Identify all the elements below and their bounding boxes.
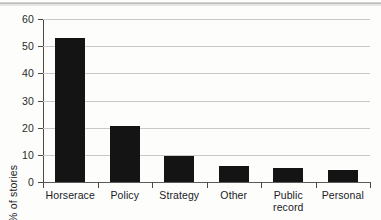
y-axis-tick-label: 20: [22, 122, 34, 134]
y-axis-tick-label: 60: [22, 13, 34, 25]
x-axis-tick: [152, 182, 153, 188]
bar: [219, 166, 249, 182]
x-axis-category-label: Public record: [261, 190, 316, 213]
x-axis-tick: [261, 182, 262, 188]
x-axis-category-label: Other: [207, 190, 262, 202]
y-axis-tick-label: 40: [22, 67, 34, 79]
y-axis-tick-label: 30: [22, 95, 34, 107]
x-axis-tick: [207, 182, 208, 188]
gridline: [43, 101, 370, 102]
plot-area: 0102030405060: [43, 19, 370, 182]
bar: [164, 156, 194, 182]
y-axis-tick: [38, 101, 43, 102]
bar-chart-figure: % of stories 0102030405060 HorseracePoli…: [0, 0, 381, 220]
y-axis-tick: [38, 19, 43, 20]
gridline: [43, 155, 370, 156]
x-axis-tick: [370, 182, 371, 188]
scan-artifact-streak: [0, 2, 381, 5]
y-axis-title: % of stories: [7, 112, 19, 220]
bar: [110, 126, 140, 182]
x-axis-category-label: Strategy: [152, 190, 207, 202]
gridline: [43, 73, 370, 74]
y-axis-tick: [38, 46, 43, 47]
x-axis-category-label: Horserace: [43, 190, 98, 202]
bar: [55, 38, 85, 182]
gridline: [43, 19, 370, 20]
y-axis-tick: [38, 73, 43, 74]
scan-artifact-streak-secondary: [0, 5, 381, 6]
y-axis-tick-label: 50: [22, 40, 34, 52]
x-axis-category-label: Personal: [316, 190, 371, 202]
x-axis-tick: [98, 182, 99, 188]
bar: [273, 168, 303, 182]
x-axis-tick: [316, 182, 317, 188]
gridline: [43, 128, 370, 129]
x-axis-category-label: Policy: [98, 190, 153, 202]
y-axis-title-wrap: % of stories: [9, 160, 23, 161]
gridline: [43, 46, 370, 47]
y-axis-tick: [38, 155, 43, 156]
y-axis-tick-label: 10: [22, 149, 34, 161]
y-axis-tick-label: 0: [28, 176, 34, 188]
x-axis-tick: [43, 182, 44, 188]
bar: [328, 170, 358, 182]
y-axis-tick: [38, 128, 43, 129]
